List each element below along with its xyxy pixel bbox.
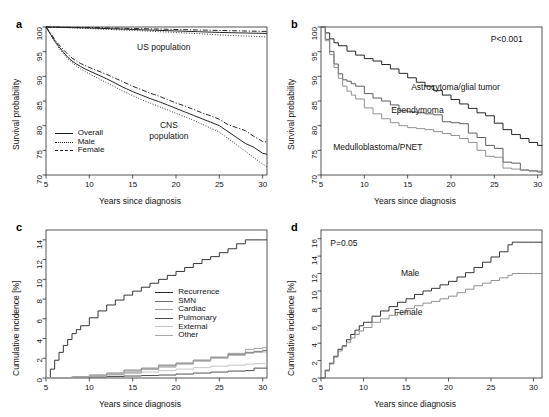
- tick-label-y: 85: [35, 101, 45, 125]
- tick-label-x: 15: [397, 180, 419, 189]
- panel-d-curve-label-female: Female: [394, 307, 422, 317]
- curve-us-population-male: [46, 27, 267, 37]
- legend-swatch-pulmonary: [155, 318, 173, 319]
- tick-label-y: 80: [35, 126, 45, 150]
- tick-label-x: 10: [353, 180, 375, 189]
- legend-swatch-female: [55, 150, 73, 151]
- legend-item-female: Female: [55, 146, 105, 155]
- tick-label-y: 90: [35, 76, 45, 100]
- curve-us-population-female: [46, 27, 267, 31]
- curve-external: [46, 363, 267, 378]
- curve-us-population: [46, 27, 267, 33]
- tick-label-x: 15: [395, 383, 417, 392]
- figure-container: a Survival probability Years since diagn…: [0, 0, 549, 417]
- panel-d-x-axis-title: Years since diagnosis: [355, 399, 475, 409]
- legend-swatch-smn: [155, 301, 173, 302]
- panel-c-legend: RecurrenceSMNCardiacPulmonaryExternalOth…: [155, 288, 219, 340]
- tick-label-x: 25: [208, 180, 230, 189]
- curve-pulmonary: [46, 368, 267, 378]
- tick-label-y: 95: [310, 52, 320, 76]
- curve-other: [46, 352, 267, 378]
- tick-label-x: 10: [78, 383, 100, 392]
- panel-b: b Survival probability Years since diagn…: [275, 0, 549, 208]
- tick-label-x: 25: [480, 383, 502, 392]
- legend-swatch-overall: [55, 133, 73, 134]
- tick-label-x: 30: [527, 180, 549, 189]
- panel-a-x-axis-title: Years since diagnosis: [80, 196, 200, 206]
- legend-label: Other: [178, 331, 198, 340]
- tick-label-y: 90: [310, 76, 320, 100]
- legend-swatch-recurrence: [155, 292, 173, 293]
- tick-label-x: 30: [252, 383, 274, 392]
- tick-label-x: 20: [165, 383, 187, 392]
- panel-a-letter: a: [16, 18, 22, 30]
- tick-label-y: 85: [310, 101, 320, 125]
- tick-label-y: 75: [310, 150, 320, 174]
- tick-label-y: 80: [310, 126, 320, 150]
- legend-swatch-external: [155, 326, 173, 327]
- tick-label-x: 20: [438, 383, 460, 392]
- panel-b-x-axis-title: Years since diagnosis: [355, 196, 475, 206]
- panel-b-curve-label-astrocytoma: Astrocytoma/glial tumor: [411, 82, 500, 92]
- tick-label-x: 15: [122, 383, 144, 392]
- tick-label-x: 30: [252, 180, 274, 189]
- panel-b-letter: b: [291, 18, 298, 30]
- legend-swatch-cardiac: [155, 309, 173, 310]
- tick-label-x: 20: [165, 180, 187, 189]
- panel-a-y-axis-title: Survival probability: [11, 79, 21, 150]
- tick-label-x: 25: [483, 180, 505, 189]
- tick-label-y: 16: [310, 239, 320, 263]
- legend-item-other: Other: [155, 331, 219, 340]
- panel-d-y-axis-title: Cumulative incidence [%]: [286, 281, 296, 376]
- tick-label-x: 10: [353, 383, 375, 392]
- panel-b-curve-label-ependymoma: Ependymoma: [391, 105, 443, 115]
- panel-a: a Survival probability Years since diagn…: [0, 0, 275, 208]
- tick-label-y: 75: [35, 150, 45, 174]
- panel-a-legend: OverallMaleFemale: [55, 129, 105, 155]
- panel-b-curve-label-medulloblastoma: Medulloblastoma/PNET: [333, 142, 422, 152]
- panel-b-pvalue: P<0.001: [491, 34, 523, 44]
- curve-male: [321, 242, 542, 378]
- tick-label-y: 95: [35, 52, 45, 76]
- panel-d-curve-label-male: Male: [401, 268, 419, 278]
- tick-label-x: 15: [122, 180, 144, 189]
- legend-label: Female: [78, 146, 105, 155]
- panel-a-annotation-us-population: US population: [137, 42, 190, 52]
- tick-label-y: 70: [35, 175, 45, 199]
- tick-label-x: 20: [440, 180, 462, 189]
- tick-label-x: 25: [208, 383, 230, 392]
- tick-label-y: 100: [310, 27, 320, 51]
- curve-cardiac: [46, 347, 267, 378]
- panel-b-y-axis-title: Survival probability: [286, 79, 296, 150]
- panel-c-letter: c: [16, 221, 22, 233]
- tick-label-x: 10: [78, 180, 100, 189]
- tick-label-x: 30: [523, 383, 545, 392]
- panel-c: c Cumulative incidence [%] Years since d…: [0, 208, 275, 417]
- curve-smn: [46, 350, 267, 378]
- panel-d-letter: d: [291, 221, 298, 233]
- legend-swatch-male: [55, 142, 73, 143]
- curve-female: [321, 274, 542, 378]
- panel-d-pvalue: P=0.05: [330, 238, 357, 248]
- panel-d: d Cumulative incidence [%] Years since d…: [275, 208, 549, 417]
- tick-label-y: 100: [35, 27, 45, 51]
- tick-label-y: 14: [35, 240, 45, 264]
- tick-label-y: 70: [310, 175, 320, 199]
- panel-c-y-axis-title: Cumulative incidence [%]: [11, 281, 21, 376]
- panel-c-x-axis-title: Years since diagnosis: [80, 399, 200, 409]
- panel-a-annotation-cns-line1: CNS: [144, 120, 194, 130]
- panel-a-annotation-cns-line2: population: [144, 131, 194, 141]
- legend-swatch-other: [155, 335, 173, 336]
